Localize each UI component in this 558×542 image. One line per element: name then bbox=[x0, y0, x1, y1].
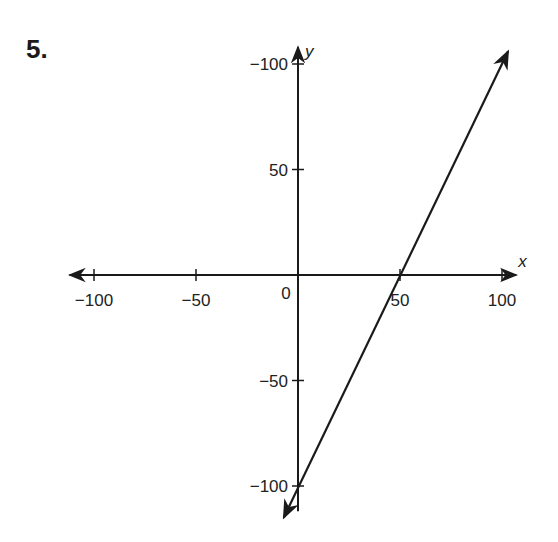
x-tick-label: 100 bbox=[488, 291, 516, 310]
x-tick-label: −50 bbox=[182, 291, 211, 310]
origin-label: 0 bbox=[281, 284, 290, 303]
y-tick-label: 50 bbox=[269, 161, 288, 180]
y-axis-label: y bbox=[304, 42, 315, 61]
plotted-line bbox=[284, 51, 508, 517]
x-tick-label: 50 bbox=[391, 291, 410, 310]
x-axis-label: x bbox=[517, 252, 527, 271]
y-tick-label: −100 bbox=[250, 477, 288, 496]
axes bbox=[70, 47, 517, 511]
tick-labels: −100−5050100−10050−50−1000xy bbox=[75, 42, 527, 496]
y-tick-label: −50 bbox=[259, 372, 288, 391]
y-tick-label: −100 bbox=[250, 55, 288, 74]
x-tick-label: −100 bbox=[75, 291, 113, 310]
coordinate-plane: −100−5050100−10050−50−1000xy bbox=[0, 0, 558, 542]
graph-line bbox=[284, 51, 508, 517]
